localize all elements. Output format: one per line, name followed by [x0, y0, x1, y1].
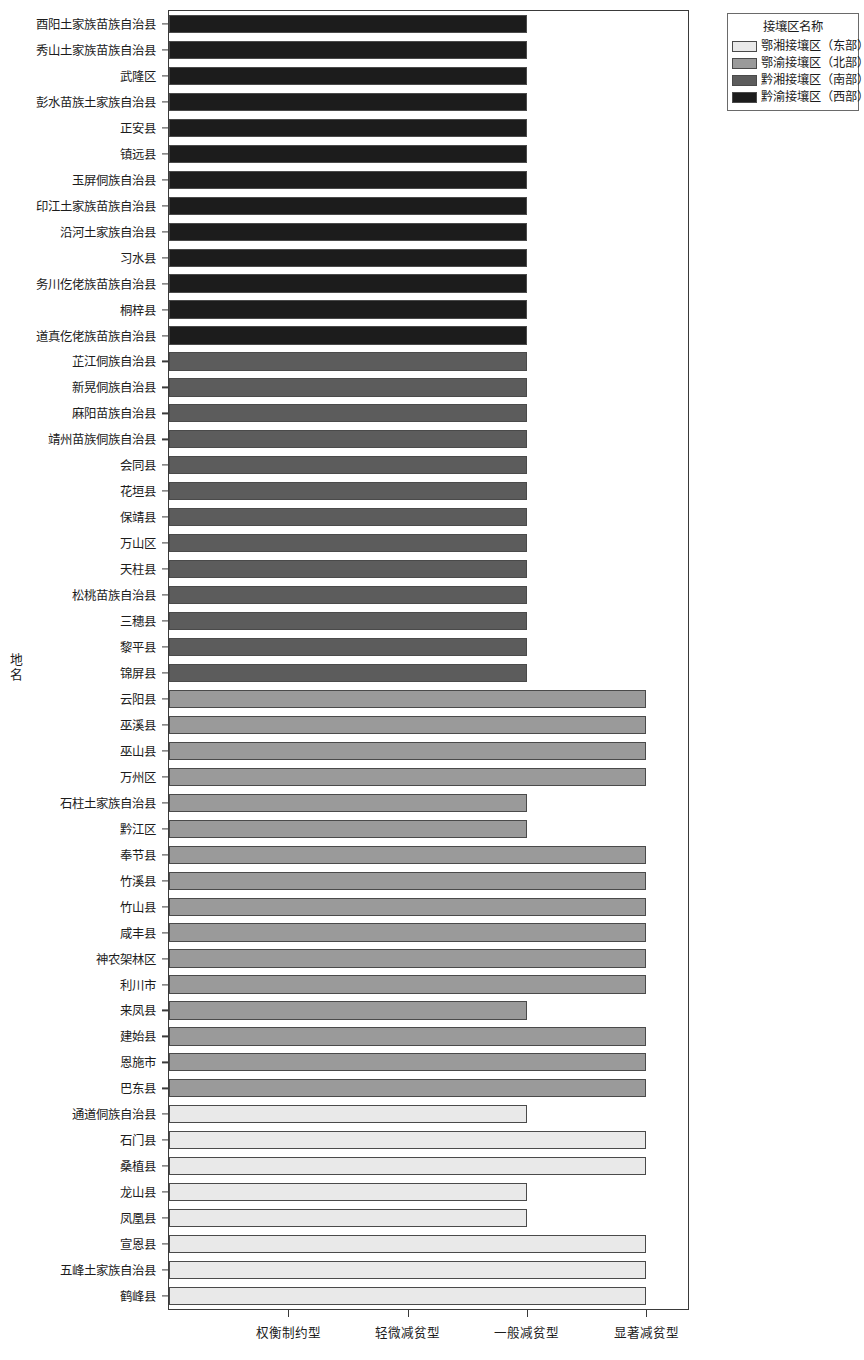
y-axis-tick: [162, 1036, 168, 1037]
y-axis-tick: [162, 517, 168, 518]
legend: 接壤区名称 鄂湘接壤区（东部）鄂渝接壤区（北部）黔湘接壤区（南部）黔渝接壤区（西…: [727, 13, 859, 111]
bar: [169, 872, 646, 890]
y-axis-tick-label: 石柱土家族自治县: [60, 796, 156, 809]
bar: [169, 41, 527, 59]
y-axis-tick: [162, 1088, 168, 1089]
y-axis-tick-label: 竹溪县: [120, 874, 156, 887]
y-axis-tick: [162, 153, 168, 154]
x-axis-tick: [527, 1310, 528, 1317]
legend-item[interactable]: 鄂湘接壤区（东部）: [732, 38, 854, 55]
y-axis-tick-label: 务川仡佬族苗族自治县: [36, 277, 156, 290]
bar: [169, 534, 527, 552]
y-axis-tick-label: 保靖县: [120, 511, 156, 524]
bar: [169, 145, 527, 163]
y-axis-tick-label: 石门县: [120, 1134, 156, 1147]
legend-item-label: 黔渝接壤区（西部）: [761, 91, 864, 104]
y-axis-tick-label: 来凤县: [120, 1004, 156, 1017]
y-axis-tick-label: 竹山县: [120, 900, 156, 913]
y-axis-tick: [162, 1192, 168, 1193]
bar: [169, 846, 646, 864]
y-axis-tick-label: 建始县: [120, 1030, 156, 1043]
y-axis-tick: [162, 620, 168, 621]
y-axis-tick-label: 巫溪县: [120, 718, 156, 731]
y-axis-tick: [162, 413, 168, 414]
y-axis-tick-label: 咸丰县: [120, 926, 156, 939]
bar: [169, 1287, 646, 1305]
y-axis-tick: [162, 49, 168, 50]
y-axis-tick-label: 奉节县: [120, 848, 156, 861]
y-axis-tick: [162, 231, 168, 232]
bar: [169, 1027, 646, 1045]
y-axis-tick: [162, 984, 168, 985]
y-axis-tick-label: 芷江侗族自治县: [72, 355, 156, 368]
y-axis-tick-label: 黎平县: [120, 641, 156, 654]
legend-rows: 鄂湘接壤区（东部）鄂渝接壤区（北部）黔湘接壤区（南部）黔渝接壤区（西部）: [732, 38, 854, 106]
bar: [169, 274, 527, 292]
y-axis-tick-label: 凤凰县: [120, 1212, 156, 1225]
y-axis-tick-label: 云阳县: [120, 692, 156, 705]
legend-item[interactable]: 鄂渝接壤区（北部）: [732, 55, 854, 72]
bar: [169, 249, 527, 267]
y-axis-tick-label: 镇远县: [120, 147, 156, 160]
y-axis-tick: [162, 543, 168, 544]
bar: [169, 482, 527, 500]
bar: [169, 67, 527, 85]
bar: [169, 326, 527, 344]
y-axis-tick-label: 麻阳苗族自治县: [72, 407, 156, 420]
y-axis-tick-label: 万州区: [120, 770, 156, 783]
x-axis-labels: 权衡制约型轻微减贫型一般减贫型显著减贫型: [0, 1322, 864, 1346]
y-axis-tick: [162, 361, 168, 362]
y-axis-tick-label: 神农架林区: [96, 952, 156, 965]
bar: [169, 300, 527, 318]
y-axis-tick-label: 天柱县: [120, 563, 156, 576]
y-axis-tick-label: 恩施市: [120, 1056, 156, 1069]
y-axis-tick-label: 三穗县: [120, 615, 156, 628]
y-axis-tick-label: 花垣县: [120, 485, 156, 498]
bar: [169, 171, 527, 189]
legend-item[interactable]: 黔渝接壤区（西部）: [732, 89, 854, 106]
bar: [169, 690, 646, 708]
y-axis-tick-label: 黔江区: [120, 822, 156, 835]
bars-layer: [169, 11, 688, 1309]
y-axis-tick: [162, 724, 168, 725]
y-axis-tick-label: 万山区: [120, 537, 156, 550]
x-axis-tick-label: 显著减贫型: [614, 1322, 679, 1341]
y-axis-tick: [162, 828, 168, 829]
bar: [169, 1209, 527, 1227]
y-axis-tick: [162, 75, 168, 76]
y-axis-tick-label: 秀山土家族苗族自治县: [36, 43, 156, 56]
y-axis-tick: [162, 1269, 168, 1270]
legend-item-label: 鄂渝接壤区（北部）: [761, 57, 864, 70]
y-axis-tick-label: 玉屏侗族自治县: [72, 173, 156, 186]
bar: [169, 430, 527, 448]
y-axis-title-char: 名: [5, 667, 27, 682]
y-axis-tick-label: 印江土家族苗族自治县: [36, 199, 156, 212]
bar: [169, 716, 646, 734]
y-axis-tick-label: 沿河土家族自治县: [60, 225, 156, 238]
y-axis-tick: [162, 179, 168, 180]
y-axis-tick: [162, 1114, 168, 1115]
y-axis-tick: [162, 283, 168, 284]
y-axis-tick: [162, 1140, 168, 1141]
bar: [169, 197, 527, 215]
y-axis-tick-label: 利川市: [120, 978, 156, 991]
bar: [169, 223, 527, 241]
bar: [169, 949, 646, 967]
bar: [169, 1053, 646, 1071]
bar: [169, 975, 646, 993]
y-axis-tick: [162, 802, 168, 803]
y-axis-tick-label: 宣恩县: [120, 1238, 156, 1251]
legend-item[interactable]: 黔湘接壤区（南部）: [732, 72, 854, 89]
y-axis-tick: [162, 906, 168, 907]
y-axis-title-char: 地: [5, 652, 27, 667]
y-axis-tick: [162, 257, 168, 258]
y-axis-tick: [162, 309, 168, 310]
bar: [169, 612, 527, 630]
bar: [169, 560, 527, 578]
x-axis-ticks: [0, 1310, 864, 1320]
bar: [169, 508, 527, 526]
y-axis-tick: [162, 1166, 168, 1167]
y-axis-tick-label: 五峰土家族自治县: [60, 1264, 156, 1277]
y-axis-tick: [162, 465, 168, 466]
bar: [169, 664, 527, 682]
